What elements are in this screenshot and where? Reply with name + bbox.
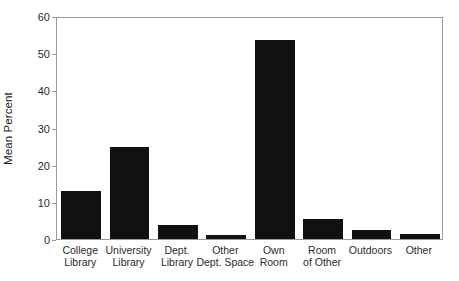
bar [158, 225, 198, 239]
x-tick-label: Other [380, 245, 458, 257]
bar [61, 191, 101, 239]
y-tick-label: 40 [16, 85, 50, 97]
y-tick-label: 50 [16, 48, 50, 60]
y-tick-label: 10 [16, 197, 50, 209]
y-tick-label: 60 [16, 11, 50, 23]
bar [400, 234, 440, 239]
x-tick-label-line: Other [380, 245, 458, 257]
y-tick-label: 20 [16, 160, 50, 172]
x-tick-label-line: of Other [283, 257, 361, 269]
plot-area [56, 17, 443, 240]
bar [110, 147, 150, 239]
bar [352, 230, 392, 239]
y-axis-title: Mean Percent [0, 17, 16, 240]
bar-chart-figure: Mean Percent 0102030405060 CollegeLibrar… [0, 0, 459, 281]
bar [255, 40, 295, 239]
bar [206, 235, 246, 239]
y-tick-label: 30 [16, 123, 50, 135]
y-tick-mark [52, 240, 56, 241]
bar [303, 219, 343, 239]
